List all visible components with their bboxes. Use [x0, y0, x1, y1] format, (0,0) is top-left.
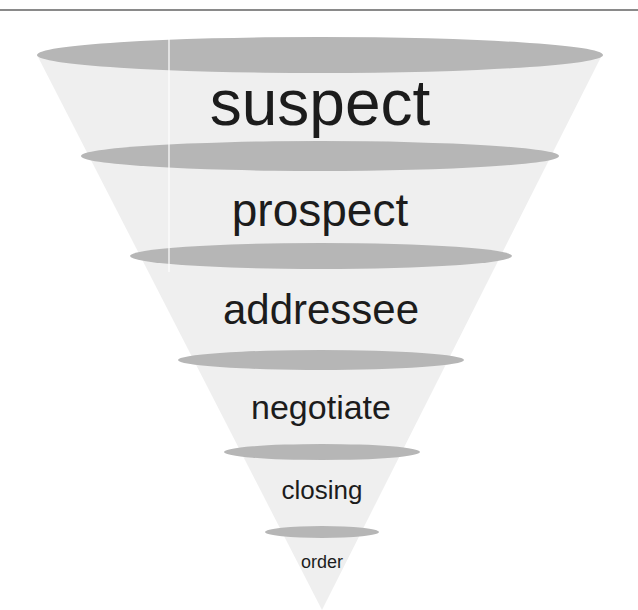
- stage-rim: [265, 526, 379, 538]
- stage-rim: [224, 444, 420, 460]
- stage-label: negotiate: [251, 388, 391, 426]
- stage-label: order: [301, 552, 343, 572]
- stage-label: prospect: [232, 184, 409, 236]
- stage-rim: [81, 141, 559, 171]
- funnel-diagram: suspect prospect addressee negotiate clo…: [0, 0, 638, 610]
- stage-rim: [130, 243, 512, 269]
- stage-rim: [178, 350, 464, 370]
- stage-label: addressee: [223, 286, 419, 333]
- stage-label: closing: [282, 475, 363, 505]
- stage-label: suspect: [210, 67, 431, 139]
